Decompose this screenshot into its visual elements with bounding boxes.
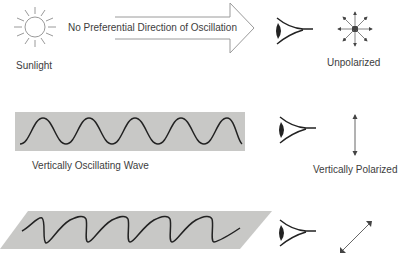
eye-icon xyxy=(275,16,315,46)
sunlight-label: Sunlight xyxy=(16,60,52,71)
multi-direction-arrows-icon xyxy=(335,8,375,50)
diagonal-double-arrow-icon xyxy=(338,219,374,255)
diagonal-wave-band xyxy=(0,211,272,251)
vertical-double-arrow-icon xyxy=(350,113,360,157)
vertically-polarized-label: Vertically Polarized xyxy=(313,164,397,175)
arrow-label: No Preferential Direction of Oscillation xyxy=(68,22,237,33)
vertical-wave-band xyxy=(15,112,245,151)
unpolarized-label: Unpolarized xyxy=(327,57,380,68)
eye-icon xyxy=(278,218,318,248)
eye-icon xyxy=(278,115,318,145)
sun-icon xyxy=(10,6,60,48)
vertical-wave-label: Vertically Oscillating Wave xyxy=(32,160,149,171)
